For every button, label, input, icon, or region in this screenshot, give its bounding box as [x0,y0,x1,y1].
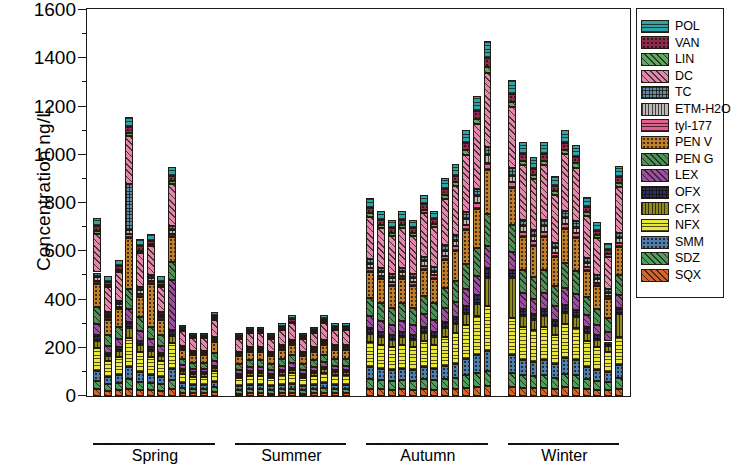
bar-segment-pol [519,142,527,154]
bar-segment-dc [519,165,527,220]
legend-item-lex[interactable]: LEX [641,167,723,184]
bar-segment-van [561,143,569,150]
legend-label: DC [675,70,693,83]
bar-segment-dc [615,187,623,233]
bar-segment-tc [615,233,623,238]
bar-segment-tyl-177 [519,232,527,237]
legend-item-tc[interactable]: TC [641,84,723,101]
legend-item-pol[interactable]: POL [641,18,723,35]
y-axis-tick [78,57,87,58]
bar-segment-smm [551,364,559,378]
x-axis-tick-label: 11S3 [472,399,480,443]
legend-swatch-lin [641,53,669,66]
legend-item-cfx[interactable]: CFX [641,201,723,218]
legend-label: ETM-H2O [675,103,731,116]
x-axis-tick-text: 11S4 [489,441,490,443]
bar-segment-smm [583,367,591,379]
bar-segment-lin [572,163,580,167]
bar-segment-tyl-177 [572,233,580,238]
bar-segment-lex [561,288,569,304]
stacked-bar[interactable] [593,222,601,396]
legend-item-lin[interactable]: LIN [641,51,723,68]
bar-segment-lin [519,161,527,165]
bar-segment-ofx [540,309,548,316]
stacked-bar[interactable] [561,130,569,396]
bar-segment-lin [540,161,548,165]
legend-swatch-cfx [641,202,669,215]
bar-segment-sqx [572,388,580,396]
bar-segment-sqx [583,389,591,396]
stacked-bar[interactable] [519,142,527,396]
bar-segment-cfx [583,333,591,341]
stacked-bar[interactable] [530,157,538,396]
bar-segment-pol [583,197,591,207]
bar-segment-sqx [593,390,601,396]
bar-segment-dc [540,165,548,220]
bar-segment-nfx [508,318,516,356]
stacked-bar[interactable] [540,142,548,396]
legend-item-van[interactable]: VAN [641,35,723,52]
bar-segment-sdz [572,375,580,388]
bar-segment-pen-v [519,237,527,270]
y-axis-tick-label: 0 [65,385,76,407]
bar-segment-nfx [551,335,559,364]
bar-segment-smm [604,372,612,382]
legend-label: LIN [675,53,694,66]
legend-swatch-sqx [641,269,669,282]
y-axis-tick [78,250,87,251]
x-axis-tick-label: 11S2 [461,399,469,443]
y-axis-tick-label: 200 [44,337,76,359]
stacked-bar[interactable] [615,166,623,396]
legend-item-sqx[interactable]: SQX [641,267,723,284]
bar-segment-ofx [583,327,591,333]
legend-label: TC [675,86,691,99]
y-axis-tick [78,347,87,348]
bar-segment-dc [530,179,538,230]
stacked-bar[interactable] [551,176,559,397]
x-axis-tick-label: 4S3 [156,399,164,443]
legend-item-dc[interactable]: DC [641,68,723,85]
legend-item-etm-h2o[interactable]: ETM-H2O [641,101,723,118]
x-axis-tick-label: 4S4 [167,399,175,443]
bar-segment-lex [583,315,591,327]
stacked-bar[interactable] [572,145,580,396]
legend-item-pen-v[interactable]: PEN V [641,134,723,151]
season-label-summer: Summer [233,447,350,464]
x-axis-tick-label: 5S2 [188,399,196,443]
legend-swatch-nfx [641,219,669,232]
season-label-autumn: Autumn [364,447,492,464]
x-axis-tick-label: 3S4 [124,399,132,443]
bar-segment-cfx [604,346,612,352]
x-axis-tick-label: 8S2 [319,399,327,443]
season-group-winter [87,9,629,396]
legend-item-pen-g[interactable]: PEN G [641,151,723,168]
stacked-bar[interactable] [583,197,591,396]
legend-label: SQX [675,269,701,282]
bar-segment-sdz [583,379,591,389]
stacked-bar[interactable] [604,243,612,396]
x-axis-tick-label: 8S3 [330,399,338,443]
bar-segment-van [530,169,538,175]
bar-segment-van [551,186,559,192]
bar-segment-ofx [551,320,559,326]
legend-item-nfx[interactable]: NFX [641,217,723,234]
bar-segment-pen-g [583,297,591,315]
stacked-bar[interactable] [508,80,516,396]
bar-segment-van [508,94,516,102]
bar-segment-pol [508,80,516,94]
bar-segment-ofx [561,305,569,313]
bar-segment-etm-h2o [593,279,601,283]
legend-item-tyl-177[interactable]: tyl-177 [641,118,723,135]
bar-segment-pen-v [551,257,559,285]
legend-item-smm[interactable]: SMM [641,234,723,251]
legend-item-ofx[interactable]: OFX [641,184,723,201]
bar-segment-lin [508,102,516,107]
legend-swatch-tc [641,86,669,99]
bar-segment-sdz [530,376,538,388]
legend-item-sdz[interactable]: SDZ [641,250,723,267]
x-axis-tick-label: 7S3 [298,399,306,443]
bar-segment-nfx [593,347,601,370]
bar-segment-pen-v [508,188,516,225]
bar-segment-ofx [604,342,612,346]
bar-segment-nfx [561,324,569,359]
